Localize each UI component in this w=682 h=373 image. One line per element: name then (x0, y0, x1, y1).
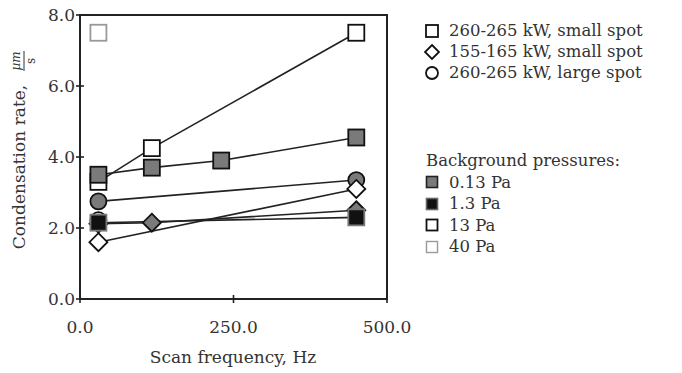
y-unit-numerator: µm (9, 51, 23, 70)
legend-item-40-pa: 40 Pa (424, 236, 620, 258)
x-axis-title: Scan frequency, Hz (150, 347, 316, 367)
diamond-marker (89, 233, 107, 251)
x-tick-label: 0.0 (66, 317, 93, 337)
light-square-marker-icon (424, 239, 440, 255)
square-marker (90, 215, 106, 231)
square-marker-icon (424, 23, 440, 39)
legend-label: 1.3 Pa (449, 193, 501, 215)
square-marker (90, 167, 106, 183)
legend-item-circle: 260-265 kW, large spot (424, 62, 643, 83)
legend-label: 260-265 kW, large spot (449, 62, 642, 83)
gray-square-marker-icon (424, 174, 440, 190)
svg-text:Condensation rate,: Condensation rate, (9, 85, 29, 249)
legend-label: 260-265 kW, small spot (449, 20, 643, 41)
y-tick-label: 4.0 (48, 147, 75, 167)
square-marker (144, 160, 160, 176)
diamond-marker-icon (424, 44, 440, 60)
circle-marker (90, 193, 106, 209)
open-square-marker-icon (424, 217, 440, 233)
square-marker (90, 25, 106, 41)
legend-item-1-3-pa: 1.3 Pa (424, 193, 620, 215)
black-square-marker-icon (424, 196, 440, 212)
legend-label: 13 Pa (449, 215, 495, 237)
y-axis-title: Condensation rate, µm s (9, 51, 38, 249)
series-line (98, 180, 356, 201)
legend-shapes: 260-265 kW, small spot 155-165 kW, small… (424, 20, 643, 83)
square-marker (348, 129, 364, 145)
series-line (98, 189, 356, 242)
x-tick-label: 500.0 (363, 317, 412, 337)
series-lines (98, 33, 356, 242)
legend-pressures-title: Background pressures: (426, 150, 620, 172)
y-tick-label: 2.0 (48, 218, 75, 238)
legend-label: 0.13 Pa (449, 172, 511, 194)
square-marker (213, 153, 229, 169)
legend-item-square: 260-265 kW, small spot (424, 20, 643, 41)
square-marker (348, 25, 364, 41)
legend-item-diamond: 155-165 kW, small spot (424, 41, 643, 62)
y-tick-label: 0.0 (48, 289, 75, 309)
diamond-marker (143, 214, 161, 232)
y-tick-label: 8.0 (48, 5, 75, 25)
square-marker (144, 140, 160, 156)
plot-frame (80, 15, 387, 299)
square-marker (348, 209, 364, 225)
y-tick-label: 6.0 (48, 76, 75, 96)
legend-item-0-13-pa: 0.13 Pa (424, 172, 620, 194)
circle-marker-icon (424, 65, 440, 81)
legend-label: 155-165 kW, small spot (449, 41, 643, 62)
legend-label: 40 Pa (449, 236, 495, 258)
x-tick-label: 250.0 (209, 317, 258, 337)
y-unit-denominator: s (24, 58, 38, 64)
legend-item-13-pa: 13 Pa (424, 215, 620, 237)
legend-pressures: Background pressures: 0.13 Pa 1.3 Pa 13 … (424, 150, 620, 258)
